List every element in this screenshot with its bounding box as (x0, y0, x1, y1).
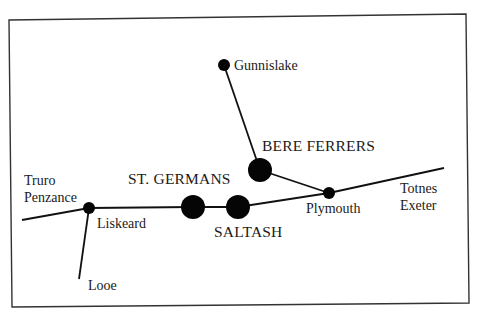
route-looe-branch (79, 208, 89, 279)
station-marker-saltash (226, 195, 250, 219)
endpoint-label-truro-penzance: Truro (24, 173, 55, 188)
station-marker-gunnislake (218, 59, 230, 71)
routes-group (22, 65, 444, 279)
station-marker-plymouth (323, 187, 335, 199)
station-marker-st-germans (181, 195, 205, 219)
station-label-st-germans: ST. GERMANS (128, 170, 231, 187)
route-main-line-liskeard-stgermans (89, 207, 193, 208)
rail-network-diagram: GunnislakeBERE FERRERSLiskeardST. GERMAN… (0, 0, 484, 320)
station-marker-bere-ferrers (248, 158, 272, 182)
route-tamar-valley-upper (224, 65, 260, 170)
endpoint-label-looe: Looe (88, 278, 117, 293)
endpoint-label-truro-penzance: Penzance (24, 190, 77, 205)
station-label-gunnislake: Gunnislake (234, 58, 298, 73)
station-label-saltash: SALTASH (214, 223, 283, 240)
endpoint-label-totnes-exeter: Exeter (400, 198, 437, 213)
station-label-bere-ferrers: BERE FERRERS (262, 137, 375, 154)
route-main-line-west (22, 208, 89, 220)
endpoint-label-totnes-exeter: Totnes (400, 181, 437, 196)
station-label-liskeard: Liskeard (97, 216, 146, 231)
station-label-plymouth: Plymouth (306, 201, 360, 216)
station-marker-liskeard (83, 202, 95, 214)
